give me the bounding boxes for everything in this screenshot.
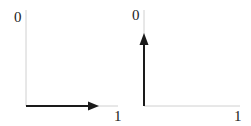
right-panel: 0 1 (132, 7, 242, 124)
right-x-label: 1 (234, 108, 242, 124)
left-y-label: 0 (14, 9, 22, 25)
up-arrow-icon (140, 33, 149, 106)
vector-diagram: 0 1 0 1 (0, 0, 251, 126)
left-panel: 0 1 (14, 9, 122, 124)
right-arrow-icon (26, 102, 99, 111)
left-x-label: 1 (114, 108, 122, 124)
right-y-label: 0 (132, 7, 140, 23)
